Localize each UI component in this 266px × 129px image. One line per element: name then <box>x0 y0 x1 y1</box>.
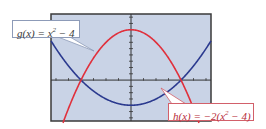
g-function-label: g(x) = x2 − 4 <box>12 20 80 38</box>
g-label-prefix: g(x) = x <box>17 27 53 39</box>
h-label-prefix: h(x) = −2(x <box>173 110 225 122</box>
g-label-suffix: − 4 <box>56 27 74 39</box>
h-label-suffix: − 4) <box>229 110 251 122</box>
h-function-label: h(x) = −2(x2 − 4) <box>168 103 254 121</box>
